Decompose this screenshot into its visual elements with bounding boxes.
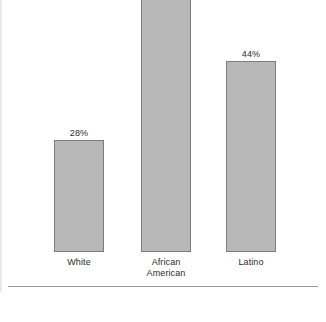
category-label-white: White — [40, 257, 118, 268]
bar-chart: 28% White 60% African American 44% Latin… — [0, 0, 326, 322]
bar-african-american[interactable] — [141, 0, 191, 252]
category-label-latino: Latino — [212, 257, 290, 268]
bar-group-latino: 44% Latino — [226, 61, 276, 252]
bar-white[interactable] — [54, 140, 104, 252]
bar-value-label: 44% — [226, 49, 276, 60]
bar-latino[interactable] — [226, 61, 276, 252]
plot-area: 28% White 60% African American 44% Latin… — [0, 0, 326, 287]
category-label-african-american: African American — [127, 257, 205, 279]
bar-group-white: 28% White — [54, 140, 104, 252]
x-axis-line — [8, 286, 318, 287]
bar-group-african-american: 60% African American — [141, 0, 191, 252]
bar-value-label: 28% — [54, 128, 104, 139]
